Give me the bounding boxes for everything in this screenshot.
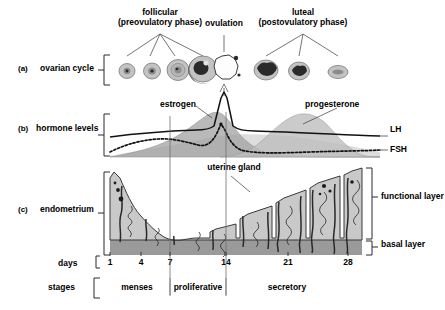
luteal-leader-lines [266, 34, 338, 56]
day-tick-14: 14 [221, 258, 230, 268]
bracket-ovarian-cycle [104, 55, 110, 85]
stage-secretory: secretory [268, 283, 306, 293]
row-label-ovarian-cycle: ovarian cycle [40, 64, 94, 74]
row-marker-b: (b) [18, 124, 28, 133]
phase-ovulation-line1: ovulation [205, 19, 243, 29]
stage-menses: menses [121, 283, 153, 293]
bracket-functional-layer [366, 168, 372, 239]
ovulation-arrow [220, 84, 228, 96]
follicle-stage-2 [144, 63, 161, 79]
corpus-luteum-stage-2 [289, 62, 310, 80]
curve-fsh [110, 124, 380, 153]
day-tick-1: 1 [108, 258, 113, 268]
area-baseline [110, 134, 380, 157]
day-tick-21: 21 [283, 258, 292, 268]
functional-layer-shape [110, 168, 362, 240]
ovulation-oocyte-release [214, 55, 241, 79]
label-lh: LH [390, 125, 401, 135]
phase-follicular-line2: (preovulatory phase) [118, 18, 202, 28]
corpus-luteum-stage-1 [254, 60, 278, 80]
corpus-albicans [328, 66, 348, 79]
follicle-stage-4-graafian [188, 56, 217, 84]
row-label-endometrium: endometrium [40, 205, 94, 215]
area-progesterone [220, 114, 380, 157]
phase-follicular: follicular (preovulatory phase) [118, 8, 202, 28]
progesterone-leader-line [303, 108, 337, 124]
area-estrogen [110, 112, 380, 157]
bracket-days [96, 256, 100, 268]
label-estrogen: estrogen [160, 100, 196, 110]
row-label-hormone-levels: hormone levels [36, 124, 98, 134]
bracket-endometrium [104, 172, 110, 255]
label-basal-layer: basal layer [381, 240, 425, 250]
estrogen-leader-line [196, 106, 212, 118]
figure-canvas: follicular (preovulatory phase) ovulatio… [0, 0, 445, 310]
basal-layer-band [110, 240, 362, 255]
label-progesterone: progesterone [305, 100, 359, 110]
bracket-basal-layer [366, 241, 372, 255]
label-fsh: FSH [390, 145, 407, 155]
day-tick-7: 7 [168, 258, 173, 268]
uterine-gland-leader-line [231, 176, 250, 192]
row-marker-c: (c) [18, 205, 28, 214]
endometrium-dots [114, 180, 354, 201]
follicular-leader-lines [127, 34, 203, 56]
row-marker-a: (a) [18, 64, 28, 73]
phase-luteal-line2: (postovulatory phase) [259, 18, 348, 28]
axis-label-days: days [58, 259, 77, 269]
phase-luteal: luteal (postovulatory phase) [259, 8, 348, 28]
day-tick-marks [110, 252, 348, 256]
follicle-stage-1 [119, 64, 135, 79]
day-tick-28: 28 [343, 258, 352, 268]
follicle-stage-3 [167, 60, 189, 81]
fsh-peak-dot [219, 122, 222, 125]
label-functional-layer: functional layer [381, 192, 444, 202]
label-uterine-gland: uterine gland [207, 163, 260, 173]
uterine-gland-spirals [120, 178, 360, 257]
day-tick-4: 4 [139, 258, 144, 268]
bracket-stages [94, 278, 100, 298]
axis-label-stages: stages [48, 283, 75, 293]
stage-proliferative: proliferative [174, 283, 223, 293]
bracket-hormone-levels [104, 114, 110, 156]
phase-ovulation: ovulation [205, 19, 243, 29]
